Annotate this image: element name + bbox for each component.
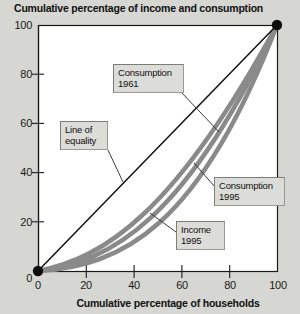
annotation-consumption-1961-line1: Consumption bbox=[118, 67, 179, 78]
y-tick-label-20: 20 bbox=[2, 216, 32, 228]
y-tick-label-40: 40 bbox=[2, 166, 32, 178]
annotation-consumption-1995-line1: Consumption bbox=[219, 180, 280, 191]
y-tick-label-100: 100 bbox=[2, 19, 32, 31]
annotation-line-of-equality: Line of equality bbox=[60, 121, 108, 150]
annotation-income-1995-line1: Income bbox=[181, 224, 220, 235]
annotation-consumption-1961: Consumption 1961 bbox=[113, 64, 184, 93]
annotation-line-of-equality-line2: equality bbox=[65, 135, 103, 146]
chart-figure: Cumulative percentage of income and cons… bbox=[0, 0, 300, 314]
annotation-income-1995-line2: 1995 bbox=[181, 235, 220, 246]
annotation-line-of-equality-line1: Line of bbox=[65, 124, 103, 135]
x-tick-label-100: 100 bbox=[263, 279, 293, 291]
y-tick-label-60: 60 bbox=[2, 117, 32, 129]
plot-area bbox=[0, 0, 300, 314]
x-tick-label-60: 60 bbox=[167, 279, 197, 291]
x-tick-label-20: 20 bbox=[71, 279, 101, 291]
x-tick-label-80: 80 bbox=[215, 279, 245, 291]
annotation-consumption-1961-line2: 1961 bbox=[118, 78, 179, 89]
top-right-marker bbox=[272, 20, 282, 30]
x-axis-title: Cumulative percentage of households bbox=[0, 297, 300, 309]
x-tick-label-0: 0 bbox=[23, 279, 53, 291]
annotation-consumption-1995-line2: 1995 bbox=[219, 191, 280, 202]
y-tick-label-80: 80 bbox=[2, 68, 32, 80]
annotation-consumption-1995: Consumption 1995 bbox=[214, 177, 285, 206]
origin-marker bbox=[33, 266, 43, 276]
annotation-income-1995: Income 1995 bbox=[176, 221, 225, 250]
x-tick-label-40: 40 bbox=[119, 279, 149, 291]
